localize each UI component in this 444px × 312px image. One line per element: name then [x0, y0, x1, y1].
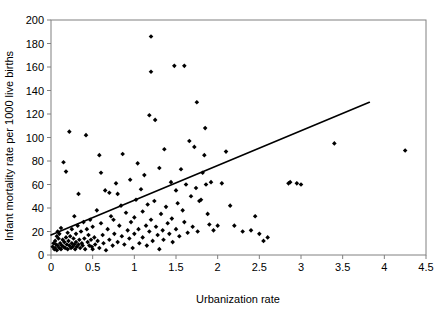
x-tick-label: 0.5	[85, 261, 100, 273]
data-point-marker	[175, 201, 180, 206]
data-point-marker	[249, 228, 254, 233]
data-point-marker	[95, 239, 100, 244]
data-point-marker	[86, 233, 91, 238]
x-tick-label: 3	[298, 261, 304, 273]
data-point-marker	[187, 139, 192, 144]
data-point-marker	[67, 129, 72, 134]
data-point-marker	[128, 178, 133, 183]
x-tick-label: 2	[215, 261, 221, 273]
data-point-marker	[82, 236, 87, 241]
data-point-marker	[103, 188, 108, 193]
x-tick-label: 4	[381, 261, 387, 273]
data-point-marker	[170, 240, 175, 245]
data-point-marker	[195, 229, 200, 234]
data-point-marker	[194, 186, 199, 191]
data-point-marker	[89, 237, 94, 242]
data-point-marker	[232, 223, 237, 228]
data-point-marker	[299, 182, 304, 187]
data-point-marker	[149, 34, 154, 39]
data-point-marker	[130, 246, 135, 251]
data-point-marker	[79, 229, 84, 234]
y-tick-label: 100	[26, 132, 44, 144]
data-point-marker	[189, 194, 194, 199]
data-point-marker	[61, 160, 66, 165]
data-point-marker	[257, 232, 262, 237]
y-tick-label: 80	[32, 155, 44, 167]
data-point-marker	[261, 239, 266, 244]
data-point-marker	[167, 232, 172, 237]
data-point-marker	[120, 152, 125, 157]
data-point-marker	[100, 233, 105, 238]
data-point-marker	[215, 223, 220, 228]
data-point-marker	[132, 232, 137, 237]
chart-canvas: 00.511.522.533.544.5 0204060801001201401…	[0, 0, 444, 312]
y-tick-label: 180	[26, 38, 44, 50]
x-axis-ticks: 00.511.522.533.544.5	[48, 255, 434, 273]
data-point-marker	[152, 199, 157, 204]
data-point-marker	[195, 100, 200, 105]
data-point-marker	[93, 242, 98, 247]
x-tick-label: 3.5	[335, 261, 350, 273]
data-point-marker	[145, 202, 150, 207]
data-point-marker	[109, 214, 114, 219]
data-point-marker	[160, 228, 165, 233]
scatter-plot-figure: 00.511.522.533.544.5 0204060801001201401…	[0, 0, 444, 312]
data-point-marker	[203, 126, 208, 131]
data-point-marker	[295, 181, 300, 186]
data-point-marker	[115, 240, 120, 245]
data-point-marker	[104, 248, 109, 253]
data-point-marker	[139, 187, 144, 192]
data-point-marker	[107, 237, 112, 242]
data-point-marker	[95, 208, 100, 213]
data-point-marker	[149, 217, 154, 222]
data-point-marker	[240, 229, 245, 234]
data-point-marker	[157, 166, 162, 171]
data-point-marker	[101, 241, 106, 246]
data-point-marker	[135, 161, 140, 166]
y-tick-label: 20	[32, 226, 44, 238]
data-point-marker	[127, 236, 132, 241]
data-point-marker	[207, 222, 212, 227]
data-point-marker	[144, 223, 149, 228]
x-tick-label: 0	[48, 261, 54, 273]
data-point-marker	[172, 64, 177, 69]
data-point-marker	[111, 217, 116, 222]
data-point-marker	[220, 181, 225, 186]
data-point-marker	[179, 167, 184, 172]
data-point-marker	[265, 235, 270, 240]
data-point-marker	[92, 235, 97, 240]
data-point-marker	[147, 113, 152, 118]
data-point-marker	[99, 170, 104, 175]
data-point-marker	[149, 69, 154, 74]
data-point-marker	[65, 230, 70, 235]
data-point-marker	[115, 192, 120, 197]
data-point-marker	[228, 203, 233, 208]
data-point-marker	[97, 153, 102, 158]
data-point-marker	[114, 181, 119, 186]
data-point-marker	[224, 149, 229, 154]
data-point-marker	[64, 235, 69, 240]
data-point-marker	[403, 148, 408, 153]
data-point-marker	[140, 235, 145, 240]
data-point-marker	[182, 220, 187, 225]
data-point-marker	[174, 227, 179, 232]
data-point-marker	[64, 169, 69, 174]
y-tick-label: 60	[32, 179, 44, 191]
x-tick-label: 1	[131, 261, 137, 273]
data-point-marker	[165, 221, 170, 226]
data-point-marker	[185, 230, 190, 235]
plot-frame	[51, 20, 426, 255]
data-point-marker	[154, 225, 159, 230]
data-point-marker	[112, 232, 117, 237]
data-point-marker	[162, 147, 167, 152]
data-point-marker	[161, 237, 166, 242]
data-point-marker	[211, 228, 216, 233]
data-point-marker	[72, 214, 77, 219]
regression-trend-line	[51, 102, 369, 235]
data-point-marker	[83, 247, 88, 252]
data-point-marker	[253, 214, 258, 219]
data-point-marker	[164, 205, 169, 210]
data-point-marker	[110, 243, 115, 248]
data-point-marker	[155, 233, 160, 238]
data-point-marker	[159, 212, 164, 217]
